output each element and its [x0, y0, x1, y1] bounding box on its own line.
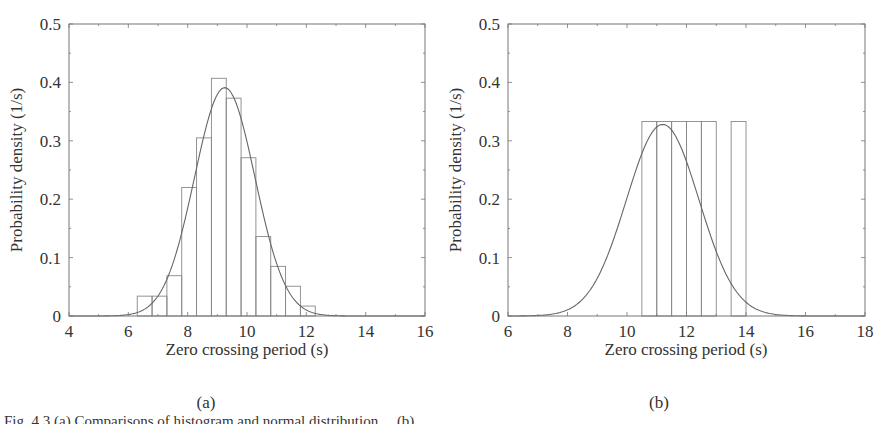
panel-label-b: (b): [649, 393, 669, 412]
x-tick-label: 18: [857, 322, 874, 341]
x-tick-label: 14: [357, 322, 375, 341]
x-tick-label: 12: [678, 322, 695, 341]
pdf-curve: [69, 88, 425, 316]
y-tick-label: 0.4: [479, 73, 501, 92]
figure-caption: Fig. 4.3 (a) Comparisons of histogram an…: [4, 414, 429, 424]
y-tick-label: 0.3: [479, 132, 500, 151]
x-tick-label: 6: [504, 322, 513, 341]
y-tick-label: 0: [492, 307, 501, 326]
x-tick-label: 8: [563, 322, 572, 341]
figure: 4681012141600.10.20.30.40.5 681012141618…: [0, 0, 882, 424]
plot-frame: [69, 24, 425, 316]
histogram-bar: [197, 138, 212, 316]
y-tick-label: 0.1: [479, 249, 500, 268]
histogram-bar: [657, 122, 672, 316]
histogram-bar: [271, 266, 286, 316]
chart-panel-b: 68101214161800.10.20.30.40.5: [479, 15, 874, 341]
histogram-bar: [226, 98, 241, 316]
chart-panel-a: 4681012141600.10.20.30.40.5: [40, 15, 434, 341]
histogram-bar: [167, 276, 182, 316]
histogram-bar: [152, 296, 167, 316]
y-tick-label: 0.5: [479, 15, 500, 34]
x-tick-label: 14: [738, 322, 756, 341]
histogram-bar: [687, 122, 702, 316]
histogram-bar: [241, 158, 256, 316]
x-tick-label: 16: [417, 322, 434, 341]
y-axis-label-a: Probability density (1/s): [7, 88, 26, 252]
x-tick-label: 6: [124, 322, 133, 341]
histogram-bar: [137, 296, 152, 316]
y-axis-label-b: Probability density (1/s): [446, 88, 465, 252]
y-tick-label: 0.3: [40, 132, 61, 151]
histogram-bar: [211, 78, 226, 316]
y-tick-label: 0.2: [479, 190, 500, 209]
y-tick-label: 0.5: [40, 15, 61, 34]
histogram-bar: [672, 122, 687, 316]
y-tick-label: 0: [53, 307, 62, 326]
x-tick-label: 12: [298, 322, 315, 341]
x-tick-label: 16: [797, 322, 814, 341]
x-axis-label-b: Zero crossing period (s): [605, 340, 768, 359]
y-tick-label: 0.1: [40, 249, 61, 268]
y-tick-label: 0.2: [40, 190, 61, 209]
x-tick-label: 10: [619, 322, 636, 341]
x-axis-label-a: Zero crossing period (s): [166, 340, 329, 359]
x-tick-label: 10: [239, 322, 256, 341]
panel-label-a: (a): [197, 393, 216, 412]
histogram-bar: [182, 188, 197, 316]
histogram-bar: [642, 122, 657, 316]
histogram-bar: [256, 237, 271, 316]
x-tick-label: 8: [183, 322, 192, 341]
histogram-bar: [701, 122, 716, 316]
y-tick-label: 0.4: [40, 73, 62, 92]
x-tick-label: 4: [65, 322, 74, 341]
